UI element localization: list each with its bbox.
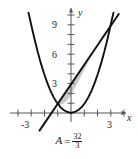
y-tick-label-6: 6 — [52, 49, 57, 60]
y-axis-label: y — [77, 7, 83, 18]
area-between-curves-figure: y x -3 3 3 6 9 A=323 — [0, 0, 138, 159]
coordinate-plot: y x -3 3 3 6 9 — [0, 0, 138, 132]
x-axis-label: x — [126, 112, 132, 123]
area-symbol: A — [56, 134, 63, 146]
y-tick-label-9: 9 — [52, 19, 57, 30]
area-caption: A=323 — [0, 133, 138, 151]
x-tick-label-neg3: -3 — [21, 119, 29, 130]
fraction-denominator: 3 — [72, 142, 82, 150]
y-axis — [68, 8, 75, 122]
x-tick-label-3: 3 — [107, 119, 112, 130]
area-fraction: 323 — [72, 133, 82, 151]
y-tick-label-3: 3 — [52, 78, 57, 89]
equals-sign: = — [62, 136, 72, 147]
